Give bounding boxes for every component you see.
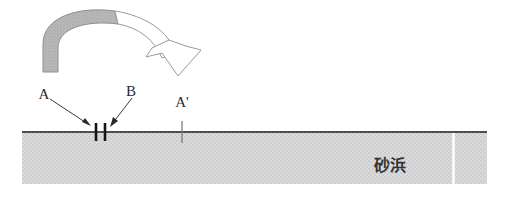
arc-gray-segment <box>43 10 118 72</box>
label-a: A <box>39 86 50 102</box>
label-b: B <box>126 83 136 99</box>
leader-arrow-a <box>50 99 91 126</box>
leader-line-a <box>50 99 88 124</box>
label-a-prime: A' <box>175 94 189 110</box>
beach-diagram-figure: A B A' 砂浜 <box>0 0 505 197</box>
sand-fill-rect <box>22 132 487 184</box>
leader-head-a <box>82 118 91 126</box>
sand-body <box>22 132 487 184</box>
label-beach: 砂浜 <box>374 156 406 175</box>
diagram-canvas: A B A' 砂浜 <box>0 0 505 197</box>
curved-transport-arrow <box>43 10 201 76</box>
leader-arrow-b <box>110 98 132 127</box>
